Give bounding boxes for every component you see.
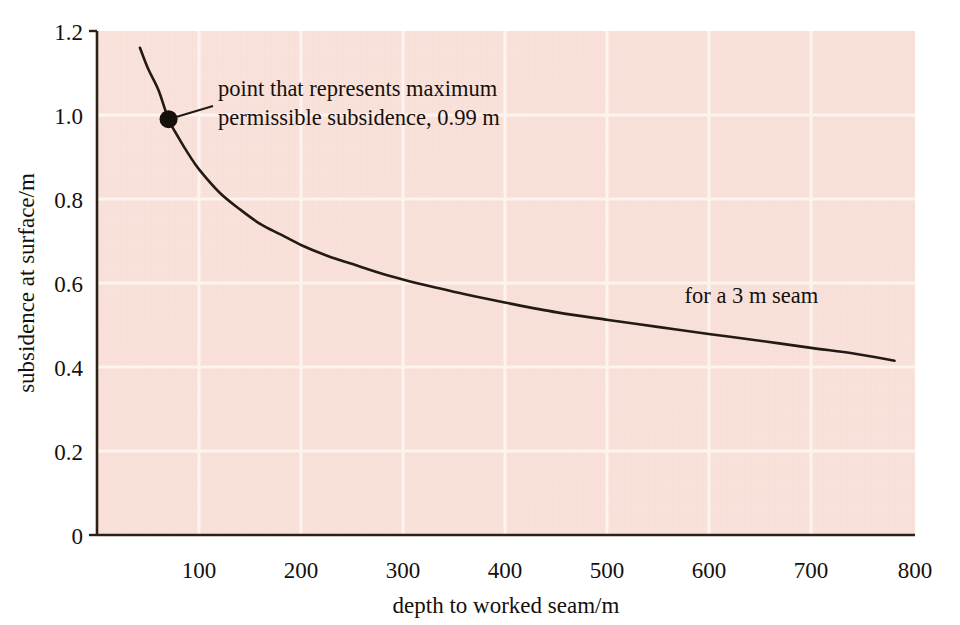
chart-canvas: 1.2 1.0 0.8 0.6 0.4 0.2 0 100 200 300 40… [0,0,960,625]
chart-figure: 1.2 1.0 0.8 0.6 0.4 0.2 0 100 200 300 40… [0,0,960,625]
x-tick-label-600: 600 [692,558,727,583]
x-axis-title: depth to worked seam/m [393,593,620,618]
y-tick-label-1-2: 1.2 [54,20,83,45]
x-tick-label-800: 800 [898,558,933,583]
x-tick-label-300: 300 [386,558,421,583]
x-tick-label-500: 500 [590,558,625,583]
y-tick-label-0-4: 0.4 [54,356,83,381]
y-tick-label-0: 0 [72,524,84,549]
y-tick-label-0-6: 0.6 [54,272,83,297]
annotation-line-2: permissible subsidence, 0.99 m [218,105,500,130]
x-tick-label-200: 200 [284,558,319,583]
x-tick-label-700: 700 [794,558,829,583]
x-tick-label-100: 100 [182,558,217,583]
max-subsidence-marker [160,110,178,128]
y-tick-label-0-8: 0.8 [54,188,83,213]
y-axis-title: subsidence at surface/m [14,173,39,393]
y-tick-label-0-2: 0.2 [54,440,83,465]
x-tick-label-400: 400 [488,558,523,583]
y-tick-label-1-0: 1.0 [54,104,83,129]
annotation-line-1: point that represents maximum [218,76,498,101]
series-inline-label: for a 3 m seam [685,283,819,308]
